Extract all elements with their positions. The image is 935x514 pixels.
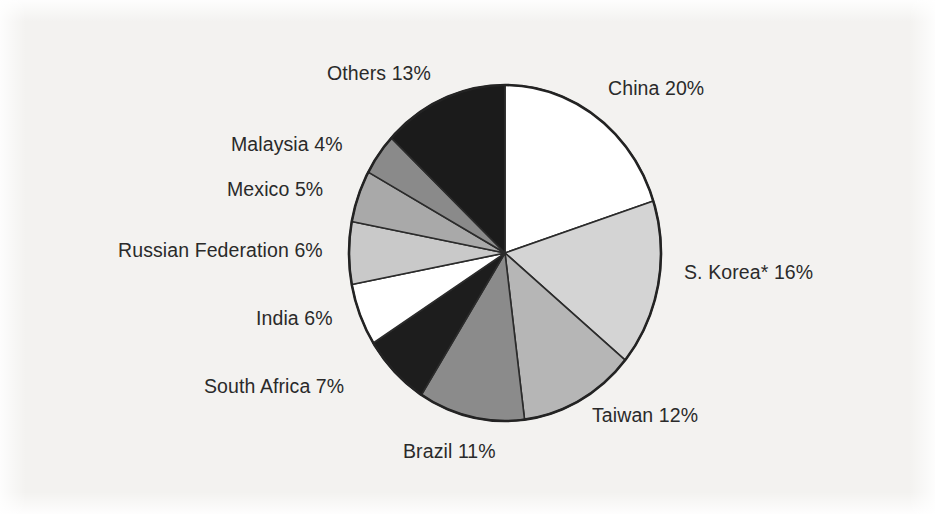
- slice-label-south-africa: South Africa 7%: [204, 377, 344, 397]
- slice-label-taiwan: Taiwan 12%: [592, 406, 698, 426]
- slice-label-malaysia: Malaysia 4%: [231, 135, 343, 155]
- slice-label-china: China 20%: [608, 79, 704, 99]
- pie-chart-figure: Others 13% China 20% Malaysia 4% Mexico …: [0, 0, 935, 514]
- slice-label-india: India 6%: [256, 309, 333, 329]
- slice-label-brazil: Brazil 11%: [403, 442, 496, 462]
- pie-slice-group: [349, 85, 661, 421]
- slice-label-s-korea: S. Korea* 16%: [684, 263, 813, 283]
- slice-label-mexico: Mexico 5%: [227, 180, 323, 200]
- slice-label-others: Others 13%: [327, 64, 431, 84]
- slice-label-russian-federation: Russian Federation 6%: [118, 241, 323, 261]
